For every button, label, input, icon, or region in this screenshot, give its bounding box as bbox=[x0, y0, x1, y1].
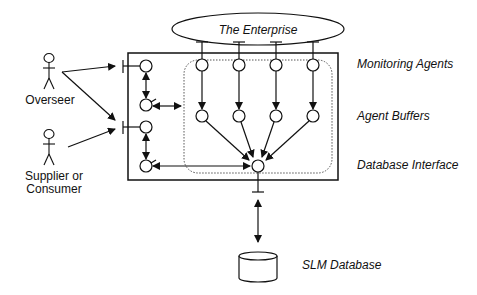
supplier-stick-figure-icon bbox=[43, 130, 55, 166]
monitoring-agent-4 bbox=[307, 59, 319, 71]
supplier-label-line2: Consumer bbox=[26, 182, 81, 196]
enterprise-node: The Enterprise bbox=[172, 13, 344, 45]
agent-buffer-3 bbox=[270, 110, 282, 122]
overseer-handler-node bbox=[140, 99, 152, 111]
database-interface-node bbox=[252, 160, 264, 172]
enterprise-label: The Enterprise bbox=[219, 23, 298, 37]
monitoring-agent-2 bbox=[233, 59, 245, 71]
supplier-actor bbox=[43, 130, 55, 166]
overseer-stick-figure-icon bbox=[43, 54, 55, 90]
interface-connector bbox=[252, 172, 264, 192]
overseer-port-node bbox=[140, 60, 152, 72]
database-interface-label: Database Interface bbox=[357, 158, 459, 172]
supplier-handler-node bbox=[140, 160, 152, 172]
agent-buffers-label: Agent Buffers bbox=[356, 109, 430, 123]
agent-buffer-4 bbox=[307, 110, 319, 122]
monitoring-agent-3 bbox=[270, 59, 282, 71]
overseer-actor bbox=[43, 54, 55, 90]
agent-buffer-1 bbox=[196, 110, 208, 122]
buffer-to-interface-arrows bbox=[206, 121, 309, 160]
supplier-port-node bbox=[140, 121, 152, 133]
supplier-label-line1: Supplier or bbox=[25, 169, 83, 183]
slm-architecture-diagram: The Enterprise bbox=[0, 0, 477, 295]
monitoring-agents bbox=[196, 42, 319, 71]
monitoring-agents-label: Monitoring Agents bbox=[357, 57, 453, 71]
agent-buffers bbox=[196, 110, 319, 122]
slm-database-label: SLM Database bbox=[302, 258, 382, 272]
monitoring-agent-1 bbox=[196, 59, 208, 71]
agent-buffer-2 bbox=[233, 110, 245, 122]
slm-database-icon bbox=[239, 252, 277, 282]
overseer-label: Overseer bbox=[25, 93, 74, 107]
monitor-to-buffer-arrows bbox=[202, 71, 313, 109]
